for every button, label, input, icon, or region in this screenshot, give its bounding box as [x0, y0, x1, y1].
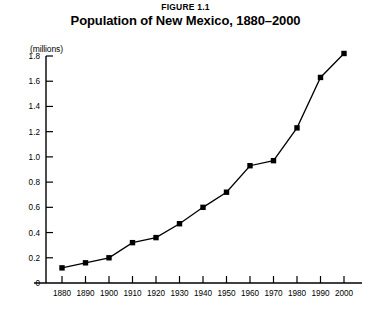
data-point-marker: [59, 265, 64, 270]
data-point-marker: [83, 260, 88, 265]
y-axis-group: 00.20.40.60.81.01.21.41.61.8: [29, 52, 53, 288]
x-axis-tick-label: 1900: [100, 289, 119, 298]
data-point-marker: [341, 51, 346, 56]
data-point-marker: [224, 190, 229, 195]
data-point-marker: [130, 240, 135, 245]
y-axis-tick-label: 0.4: [29, 229, 41, 238]
data-point-marker: [177, 221, 182, 226]
data-point-marker: [294, 125, 299, 130]
y-axis-tick-label: 0.2: [29, 254, 41, 263]
x-axis-tick-label: 1920: [147, 289, 166, 298]
data-point-marker: [200, 205, 205, 210]
y-axis-tick-label: 0.8: [29, 178, 41, 187]
x-axis-tick-label: 1960: [241, 289, 260, 298]
y-axis-tick-label: 1.4: [29, 102, 41, 111]
x-axis-group: 1880189019001910192019301940195019601970…: [34, 276, 362, 298]
line-chart-plot: 00.20.40.60.81.01.21.41.61.8 18801890190…: [0, 0, 371, 318]
y-axis-tick-label: 1.0: [29, 153, 41, 162]
y-axis-tick-label: 1.2: [29, 128, 41, 137]
y-axis-ticks: 00.20.40.60.81.01.21.41.61.8: [29, 52, 53, 288]
y-axis-tick-label: 0.6: [29, 203, 41, 212]
data-point-marker: [247, 163, 252, 168]
data-point-marker: [106, 255, 111, 260]
x-axis-tick-label: 1950: [217, 289, 236, 298]
data-series-line: [62, 53, 344, 267]
y-axis-tick-label: 1.6: [29, 77, 41, 86]
x-axis-tick-label: 1890: [76, 289, 95, 298]
x-axis-tick-label: 1930: [170, 289, 189, 298]
x-axis-tick-label: 1970: [264, 289, 283, 298]
x-axis-ticks: 1880189019001910192019301940195019601970…: [53, 276, 354, 298]
x-axis-tick-label: 1910: [123, 289, 142, 298]
data-point-marker: [153, 235, 158, 240]
x-axis-tick-label: 1990: [311, 289, 330, 298]
data-point-marker: [271, 158, 276, 163]
data-point-markers: [59, 51, 346, 271]
x-axis-tick-label: 2000: [335, 289, 354, 298]
y-axis-tick-label: 1.8: [29, 52, 41, 61]
x-axis-tick-label: 1880: [53, 289, 72, 298]
x-axis-tick-label: 1980: [288, 289, 307, 298]
x-axis-tick-label: 1940: [194, 289, 213, 298]
data-point-marker: [318, 75, 323, 80]
figure-container: FIGURE 1.1 Population of New Mexico, 188…: [0, 0, 371, 318]
